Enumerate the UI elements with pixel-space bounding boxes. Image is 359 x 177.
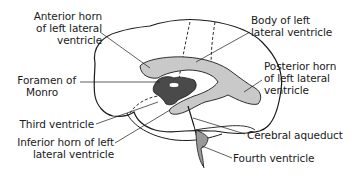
label-cerebral-aqueduct: Cerebral aqueduct [247,129,343,141]
label-line: lateral ventricle [6,148,114,160]
label-line: Body of left [251,14,332,26]
label-line: Third ventricle [6,118,94,130]
leader-fourth [202,146,232,158]
label-line: of left lateral [20,22,102,34]
label-line: Posterior horn [264,60,336,72]
leader-anterior-horn [100,32,150,68]
label-posterior-horn: Posterior horn of left lateral ventricle [264,60,336,96]
label-line: lateral ventricle [251,26,332,38]
central-dashed-line [178,22,190,85]
label-line: of left lateral [264,72,336,84]
label-line: ventricle [264,84,336,96]
label-fourth-ventricle: Fourth ventricle [233,152,314,164]
leader-body [196,32,250,62]
label-line: Fourth ventricle [233,152,314,164]
label-line: Anterior horn [20,10,102,22]
label-line: ventricle [20,34,102,46]
label-line: Monro [4,86,76,98]
label-line: Foramen of [4,74,76,86]
label-line: Cerebral aqueduct [247,129,343,141]
leader-inferior-horn [115,110,170,143]
interthalamic-adhesion [169,83,179,88]
label-anterior-horn: Anterior horn of left lateral ventricle [20,10,102,46]
label-line: Inferior horn of left [6,136,114,148]
label-body-left-lateral-ventricle: Body of left lateral ventricle [251,14,332,38]
label-third-ventricle: Third ventricle [6,118,94,130]
temporal-lobe-outline [127,113,222,141]
label-foramen-of-monro: Foramen of Monro [4,74,76,98]
label-inferior-horn: Inferior horn of left lateral ventricle [6,136,114,160]
